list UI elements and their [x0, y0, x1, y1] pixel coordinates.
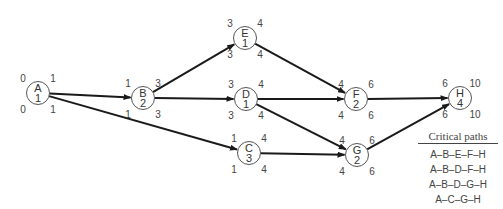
- edge-A-B: [49, 94, 130, 98]
- latest-finish: 6: [369, 166, 375, 177]
- edge-E-F: [255, 44, 345, 93]
- legend-item: A–B–D–G–H: [418, 177, 498, 192]
- legend-item: A–B–D–F–H: [418, 162, 498, 177]
- earliest-start: 4: [338, 79, 344, 90]
- latest-finish: 4: [257, 49, 263, 60]
- node-duration: 1: [242, 37, 248, 49]
- earliest-finish: 6: [369, 135, 375, 146]
- edge-B-E: [153, 44, 234, 92]
- node-duration: 2: [353, 98, 359, 110]
- node-E: E13434: [227, 18, 263, 60]
- node-duration: 1: [243, 98, 249, 110]
- latest-finish: 4: [258, 110, 264, 121]
- latest-finish: 4: [261, 164, 267, 175]
- earliest-start: 6: [442, 78, 448, 89]
- earliest-finish: 6: [368, 79, 374, 90]
- latest-start: 3: [228, 110, 234, 121]
- earliest-finish: 1: [50, 73, 56, 84]
- earliest-finish: 3: [155, 78, 161, 89]
- latest-start: 4: [339, 166, 345, 177]
- earliest-finish: 10: [469, 78, 481, 89]
- earliest-start: 0: [20, 73, 26, 84]
- edge-F-H: [367, 98, 447, 99]
- earliest-start: 1: [125, 78, 131, 89]
- edge-B-D: [154, 98, 233, 99]
- earliest-start: 3: [228, 79, 234, 90]
- node-duration: 4: [457, 97, 463, 109]
- latest-finish: 3: [155, 109, 161, 120]
- node-duration: 2: [354, 154, 360, 166]
- legend-item: A–B–E–F–H: [418, 147, 498, 162]
- earliest-finish: 4: [258, 79, 264, 90]
- node-F: F24646: [338, 79, 374, 121]
- edge-D-G: [256, 104, 346, 149]
- legend-title: Critical paths: [418, 130, 498, 144]
- latest-start: 4: [338, 110, 344, 121]
- legend-item: A–C–G–H: [418, 192, 498, 207]
- node-G: G24646: [339, 135, 375, 177]
- latest-start: 6: [442, 109, 448, 120]
- node-duration: 1: [35, 92, 41, 104]
- critical-paths-legend: Critical paths A–B–E–F–H A–B–D–F–H A–B–D…: [418, 130, 498, 207]
- earliest-start: 3: [227, 18, 233, 29]
- earliest-start: 1: [231, 133, 237, 144]
- earliest-start: 4: [339, 135, 345, 146]
- node-duration: 3: [246, 152, 252, 164]
- latest-start: 1: [231, 164, 237, 175]
- earliest-finish: 4: [261, 133, 267, 144]
- earliest-finish: 4: [257, 18, 263, 29]
- latest-start: 3: [227, 49, 233, 60]
- node-duration: 2: [140, 97, 146, 109]
- node-H: H4610610: [442, 78, 481, 120]
- latest-finish: 6: [368, 110, 374, 121]
- latest-finish: 1: [50, 104, 56, 115]
- latest-finish: 10: [469, 109, 481, 120]
- latest-start: 1: [125, 109, 131, 120]
- edge-C-G: [260, 153, 344, 155]
- latest-start: 0: [20, 104, 26, 115]
